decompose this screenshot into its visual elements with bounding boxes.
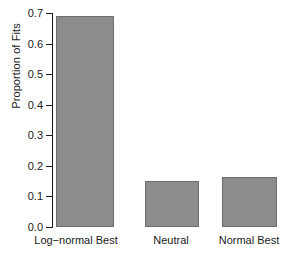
plot-area <box>52 13 292 227</box>
y-tick-label: 0.6 <box>0 39 43 50</box>
y-axis-label: Proportion of Fits <box>10 0 22 136</box>
bar-chart: Proportion of Fits 0.0 0.1 0.2 0.3 0.4 0… <box>0 0 292 258</box>
y-tick-label: 0.0 <box>0 222 43 233</box>
y-tick-label: 0.1 <box>0 191 43 202</box>
bar-log-normal-best <box>56 16 114 227</box>
y-tick-label: 0.2 <box>0 161 43 172</box>
x-tick-label-normal-best: Normal Best <box>194 234 292 246</box>
y-tick-mark <box>46 227 52 228</box>
bar-normal-best <box>222 177 277 227</box>
bar-neutral <box>145 181 199 227</box>
y-tick-label: 0.5 <box>0 69 43 80</box>
y-tick-label: 0.7 <box>0 8 43 19</box>
y-tick-label: 0.4 <box>0 100 43 111</box>
y-tick-label: 0.3 <box>0 130 43 141</box>
